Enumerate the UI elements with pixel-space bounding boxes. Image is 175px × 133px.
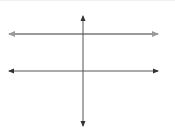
diagram-canvas [0,0,175,133]
lines-diagram [0,1,175,133]
